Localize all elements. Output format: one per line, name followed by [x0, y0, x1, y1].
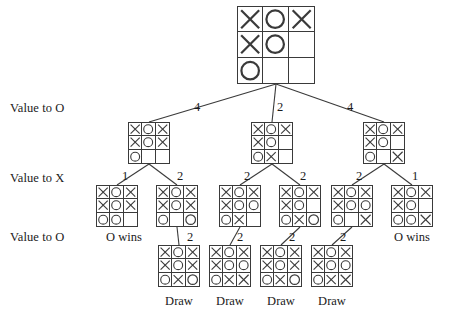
x-mark-icon	[156, 123, 169, 135]
o-mark-icon	[392, 213, 404, 226]
board-cell	[265, 123, 278, 136]
x-mark-icon	[364, 123, 376, 135]
board-cell	[279, 123, 292, 136]
board-cell	[345, 186, 358, 199]
board-cell	[142, 123, 155, 136]
board-cell	[172, 273, 185, 286]
o-mark-icon	[142, 136, 154, 148]
edge-value-label: 1	[412, 170, 418, 183]
o-mark-icon	[364, 150, 376, 163]
x-mark-icon	[261, 246, 273, 258]
x-mark-icon	[220, 186, 232, 198]
board-cell	[186, 246, 199, 259]
x-mark-icon	[288, 246, 301, 258]
x-mark-icon	[339, 273, 352, 286]
o-mark-icon	[263, 7, 287, 31]
board-cell	[252, 150, 265, 163]
o-mark-icon	[252, 150, 264, 163]
tic-tac-toe-board	[219, 185, 261, 227]
board-cell	[233, 199, 246, 212]
board-cell	[339, 273, 352, 286]
board-cell	[156, 150, 169, 163]
tic-tac-toe-board	[391, 185, 433, 227]
board-cell	[184, 186, 197, 199]
tic-tac-toe-board	[331, 185, 373, 227]
board-cell	[279, 150, 292, 163]
board-cell	[280, 213, 293, 226]
x-mark-icon	[280, 199, 292, 211]
x-mark-icon	[247, 186, 260, 198]
x-mark-icon	[210, 259, 222, 271]
board-cell	[129, 136, 142, 149]
board-cell	[312, 259, 325, 272]
x-mark-icon	[293, 213, 305, 226]
x-mark-icon	[186, 246, 199, 258]
board-cell	[359, 199, 372, 212]
x-mark-icon	[359, 186, 372, 198]
o-mark-icon	[307, 213, 320, 226]
board-cell	[392, 213, 405, 226]
o-mark-icon	[325, 246, 337, 258]
edge-value-label: 2	[289, 231, 295, 244]
board-cell	[238, 58, 263, 83]
board-cell	[345, 213, 358, 226]
board-cell	[223, 273, 236, 286]
x-mark-icon	[186, 259, 199, 271]
o-mark-icon	[97, 213, 109, 226]
tree-edge	[276, 84, 384, 122]
board-cell	[312, 273, 325, 286]
board-cell	[289, 32, 314, 57]
board-cell	[233, 186, 246, 199]
tree-edge	[149, 84, 276, 122]
board-cell	[237, 246, 250, 259]
o-mark-icon	[332, 213, 344, 226]
o-mark-icon	[325, 259, 337, 271]
board-cell	[405, 199, 418, 212]
x-mark-icon	[159, 246, 171, 258]
board-cell	[129, 123, 142, 136]
o-mark-icon	[345, 199, 357, 211]
o-mark-icon	[265, 123, 277, 135]
board-cell	[156, 123, 169, 136]
board-cell	[142, 150, 155, 163]
o-mark-icon	[142, 123, 154, 135]
o-mark-icon	[265, 136, 277, 148]
board-cell	[419, 199, 432, 212]
x-mark-icon	[261, 259, 273, 271]
row-label: Value to O	[10, 231, 64, 244]
x-mark-icon	[392, 199, 404, 211]
o-mark-icon	[274, 259, 286, 271]
x-mark-icon	[288, 259, 301, 271]
o-mark-icon	[110, 213, 122, 226]
o-mark-icon	[405, 213, 417, 226]
o-mark-icon	[172, 246, 184, 258]
o-mark-icon	[274, 246, 286, 258]
x-mark-icon	[184, 199, 197, 211]
board-cell	[288, 246, 301, 259]
x-mark-icon	[238, 32, 262, 56]
tic-tac-toe-board	[237, 6, 315, 84]
x-mark-icon	[184, 186, 197, 198]
x-mark-icon	[339, 246, 352, 258]
board-cell	[391, 150, 404, 163]
board-cell	[288, 273, 301, 286]
game-tree-diagram: Value to OValue to XValue to O4241222212…	[0, 0, 452, 315]
board-cell	[184, 199, 197, 212]
x-mark-icon	[233, 213, 245, 226]
board-cell	[263, 32, 288, 57]
board-cell	[274, 259, 287, 272]
board-cell	[252, 136, 265, 149]
o-mark-icon	[233, 186, 245, 198]
x-mark-icon	[220, 199, 232, 211]
board-cell	[110, 199, 123, 212]
edge-value-label: 2	[300, 170, 306, 183]
board-cell	[377, 150, 390, 163]
o-mark-icon	[288, 273, 301, 286]
x-mark-icon	[237, 246, 250, 258]
board-cell	[220, 186, 233, 199]
board-cell	[405, 186, 418, 199]
board-cell	[261, 259, 274, 272]
board-cell	[247, 213, 260, 226]
board-cell	[391, 136, 404, 149]
o-mark-icon	[247, 199, 260, 211]
